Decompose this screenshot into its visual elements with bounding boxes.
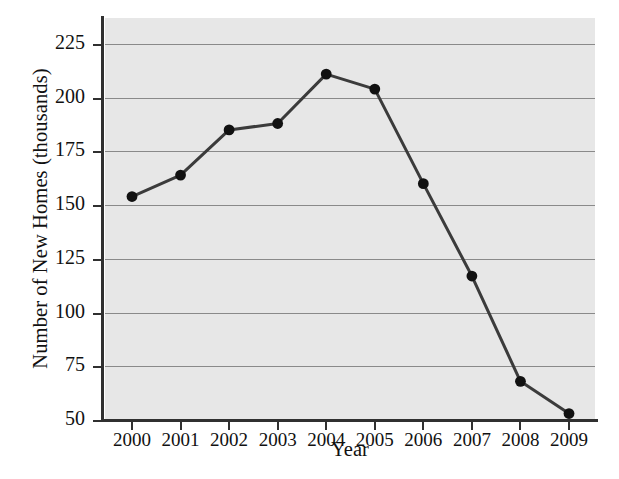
y-axis-tick-label: 75 <box>25 353 85 376</box>
gridline <box>105 151 595 152</box>
y-axis-tick <box>93 420 102 422</box>
y-axis-tick-label: 50 <box>25 407 85 430</box>
y-axis-tick <box>93 313 102 315</box>
y-axis-tick-label: 125 <box>25 246 85 269</box>
chart-figure: Number of New Homes (thousands) Year 507… <box>0 0 619 479</box>
x-axis-tick-label: 2009 <box>539 429 599 451</box>
y-axis-tick-label: 175 <box>25 138 85 161</box>
y-axis-tick-label: 200 <box>25 85 85 108</box>
x-axis-line <box>101 419 598 422</box>
gridline <box>105 313 595 314</box>
y-axis-line <box>101 16 104 422</box>
y-axis-tick-label: 225 <box>25 31 85 54</box>
y-axis-tick-label: 150 <box>25 192 85 215</box>
gridline <box>105 44 595 45</box>
plot-area <box>105 18 595 420</box>
y-axis-tick <box>93 259 102 261</box>
y-axis-tick <box>93 44 102 46</box>
y-axis-tick <box>93 98 102 100</box>
y-axis-tick <box>93 205 102 207</box>
y-axis-tick-label: 100 <box>25 300 85 323</box>
gridline <box>105 205 595 206</box>
y-axis-tick <box>93 151 102 153</box>
gridline <box>105 259 595 260</box>
gridline <box>105 366 595 367</box>
gridline <box>105 98 595 99</box>
y-axis-tick <box>93 366 102 368</box>
